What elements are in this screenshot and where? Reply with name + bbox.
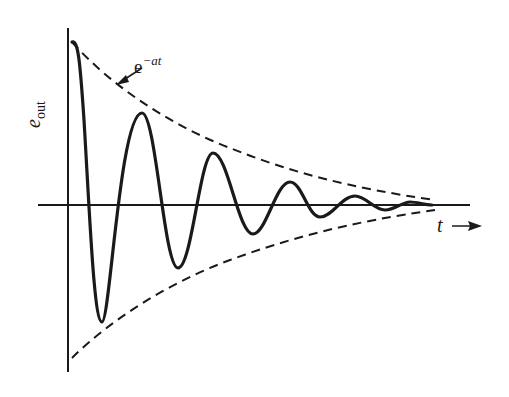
envelope-pointer-arrowhead <box>116 75 129 85</box>
y-axis-label-subscript: out <box>33 101 48 119</box>
upper-envelope <box>72 42 435 200</box>
lower-envelope <box>72 210 435 358</box>
damped-oscillation-curve <box>72 42 432 322</box>
diagram-canvas <box>0 0 509 397</box>
y-axis-label: eout <box>22 101 45 128</box>
x-axis-label: t <box>437 214 443 237</box>
damped-oscillation-figure: e−at eout t <box>0 0 509 397</box>
envelope-label-exponent: −at <box>142 53 161 68</box>
t-arrowhead-icon <box>468 221 482 231</box>
envelope-label: e−at <box>134 56 161 78</box>
y-axis-label-symbol: e <box>22 119 44 128</box>
